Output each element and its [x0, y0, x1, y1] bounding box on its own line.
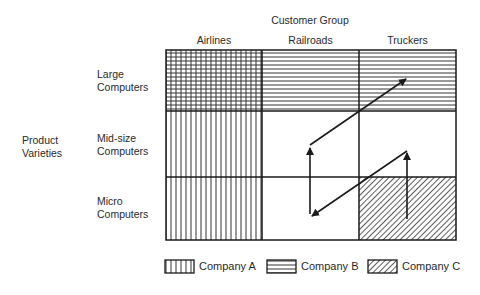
cell-railroads-large — [262, 50, 359, 111]
legend-label-company-b: Company B — [301, 260, 358, 273]
legend-label-company-a: Company A — [199, 260, 256, 273]
legend-label-company-c: Company C — [402, 260, 460, 273]
legend-swatch-company-b — [267, 260, 296, 273]
matrix-grid — [0, 0, 480, 295]
cell-airlines-large — [166, 50, 262, 111]
cell-airlines-midsize — [166, 111, 262, 177]
legend-swatch-company-c — [368, 260, 397, 273]
legend-swatch-company-a — [165, 260, 194, 273]
cell-airlines-micro — [166, 177, 262, 240]
